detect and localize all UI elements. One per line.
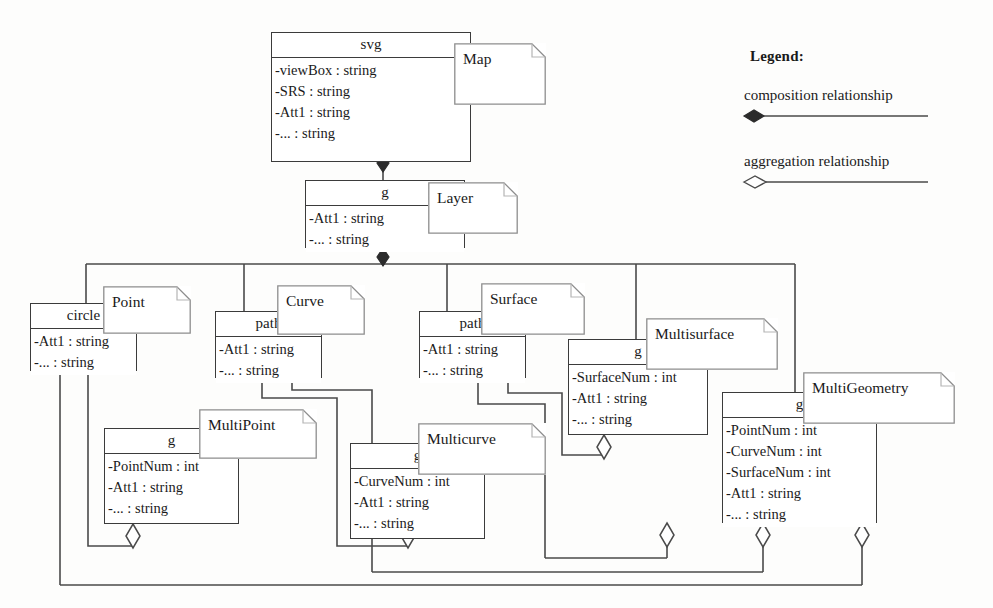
attr-row: -Att1 : string [219,339,321,360]
attr-row: -SRS : string [275,81,470,102]
note-multisurface[interactable]: Multisurface [646,318,778,370]
class-attrs-svg: -viewBox : string -SRS : string -Att1 : … [272,58,470,146]
note-point[interactable]: Point [103,286,191,334]
aggregation-diamond-multisurface [597,435,611,459]
attr-row: -... : string [572,409,707,430]
note-label: Multicurve [427,430,496,447]
legend-item-aggregation: aggregation relationship [742,153,972,193]
attr-row: -PointNum : int [108,456,238,477]
attr-row: -viewBox : string [275,60,470,81]
note-label: MultiPoint [208,416,275,433]
class-box-svg[interactable]: svg -viewBox : string -SRS : string -Att… [271,32,471,162]
attr-row: -Att1 : string [108,477,238,498]
class-attrs-multipoint: -PointNum : int -Att1 : string -... : st… [105,454,238,521]
composition-diamond-icon [742,107,942,125]
class-title-svg: svg [272,33,470,58]
note-multigeometry[interactable]: MultiGeometry [803,372,955,424]
class-attrs-point: -Att1 : string -... : string [31,329,136,375]
attr-row: -... : string [275,123,470,144]
attr-row: -Att1 : string [726,483,876,504]
attr-row: -... : string [423,360,525,381]
note-label: Layer [437,189,473,206]
attr-row: -Att1 : string [423,339,525,360]
uml-diagram-canvas: svg -viewBox : string -SRS : string -Att… [0,0,993,608]
attr-row: -SurfaceNum : int [572,367,707,388]
attr-row: -... : string [726,504,876,525]
note-label: Point [112,293,145,310]
legend-label-composition: composition relationship [744,87,972,104]
note-label: Multisurface [655,325,734,342]
class-attrs-curve: -Att1 : string -... : string [216,337,321,383]
aggregation-diamond-icon [742,173,942,191]
legend-title: Legend: [750,48,972,65]
note-label: Map [463,50,491,67]
attr-row: -Att1 : string [354,492,484,513]
attr-row: -CurveNum : int [726,441,876,462]
note-map[interactable]: Map [454,43,546,105]
note-multicurve[interactable]: Multicurve [418,423,546,475]
attr-row: -Att1 : string [572,388,707,409]
class-attrs-surface: -Att1 : string -... : string [420,337,525,383]
legend-item-composition: composition relationship [742,87,972,127]
attr-row: -Att1 : string [34,331,136,352]
note-label: Curve [286,292,324,309]
class-attrs-multisurface: -SurfaceNum : int -Att1 : string -... : … [569,365,707,432]
attr-row: -... : string [34,352,136,373]
class-attrs-multigeometry: -PointNum : int -CurveNum : int -Surface… [723,418,876,527]
attr-row: -... : string [354,513,484,534]
note-label: Surface [490,290,537,307]
note-curve[interactable]: Curve [277,285,365,335]
note-surface[interactable]: Surface [481,283,585,335]
attr-row: -SurfaceNum : int [726,462,876,483]
note-label: MultiGeometry [812,379,908,396]
aggregation-diamond-mg-1 [660,523,674,547]
legend: Legend: composition relationship aggrega… [742,48,972,219]
note-layer[interactable]: Layer [428,182,518,234]
legend-label-aggregation: aggregation relationship [744,153,972,170]
attr-row: -Att1 : string [275,102,470,123]
attr-row: -... : string [219,360,321,381]
aggregation-diamond-multipoint [126,524,140,548]
attr-row: -... : string [108,498,238,519]
note-multipoint[interactable]: MultiPoint [199,409,317,459]
class-attrs-multicurve: -CurveNum : int -Att1 : string -... : st… [351,469,484,536]
